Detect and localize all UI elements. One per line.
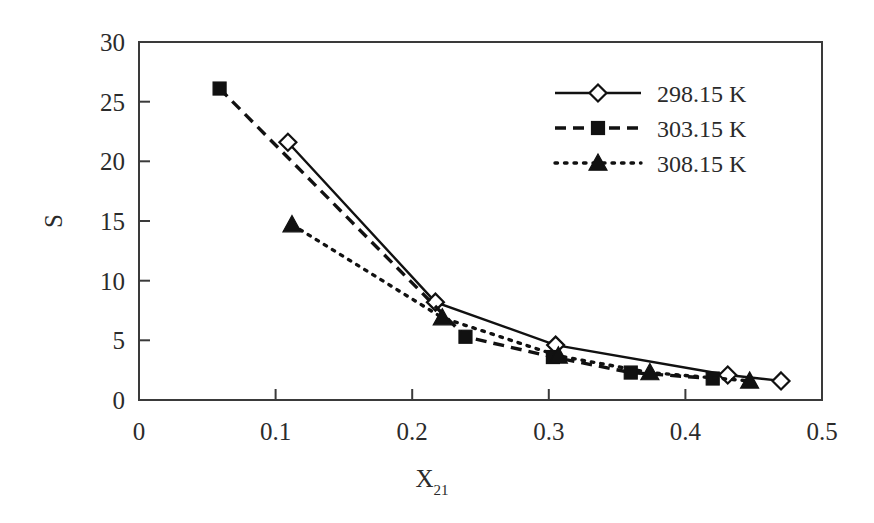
y-tick-label-15: 15 bbox=[100, 208, 125, 235]
x-tick-label-02: 0.2 bbox=[397, 418, 428, 445]
x-axis-title-base: X bbox=[415, 465, 433, 492]
line-chart: 0 5 10 15 20 25 30 0 0.1 0.2 0.3 0.4 0.5… bbox=[0, 0, 874, 523]
y-tick-label-10: 10 bbox=[100, 268, 125, 295]
legend-label: 308.15 K bbox=[657, 151, 747, 177]
y-tick-label-30: 30 bbox=[100, 29, 125, 56]
y-axis-title: S bbox=[40, 214, 67, 228]
y-tick-label-20: 20 bbox=[100, 148, 125, 175]
x-axis-title-subscript: 21 bbox=[434, 482, 449, 498]
x-tick-label-03: 0.3 bbox=[533, 418, 564, 445]
chart-background bbox=[0, 0, 874, 523]
legend-label: 303.15 K bbox=[657, 116, 747, 142]
legend-label: 298.15 K bbox=[657, 81, 747, 107]
chart-figure: 0 5 10 15 20 25 30 0 0.1 0.2 0.3 0.4 0.5… bbox=[0, 0, 874, 523]
y-tick-label-0: 0 bbox=[113, 387, 126, 414]
y-tick-label-5: 5 bbox=[113, 327, 126, 354]
data-point bbox=[213, 82, 226, 95]
x-tick-label-0: 0 bbox=[133, 418, 146, 445]
x-tick-label-04: 0.4 bbox=[670, 418, 702, 445]
x-tick-label-01: 0.1 bbox=[260, 418, 291, 445]
data-point bbox=[459, 330, 472, 343]
y-tick-label-25: 25 bbox=[100, 89, 125, 116]
x-tick-label-05: 0.5 bbox=[806, 418, 837, 445]
legend-marker bbox=[592, 122, 605, 135]
